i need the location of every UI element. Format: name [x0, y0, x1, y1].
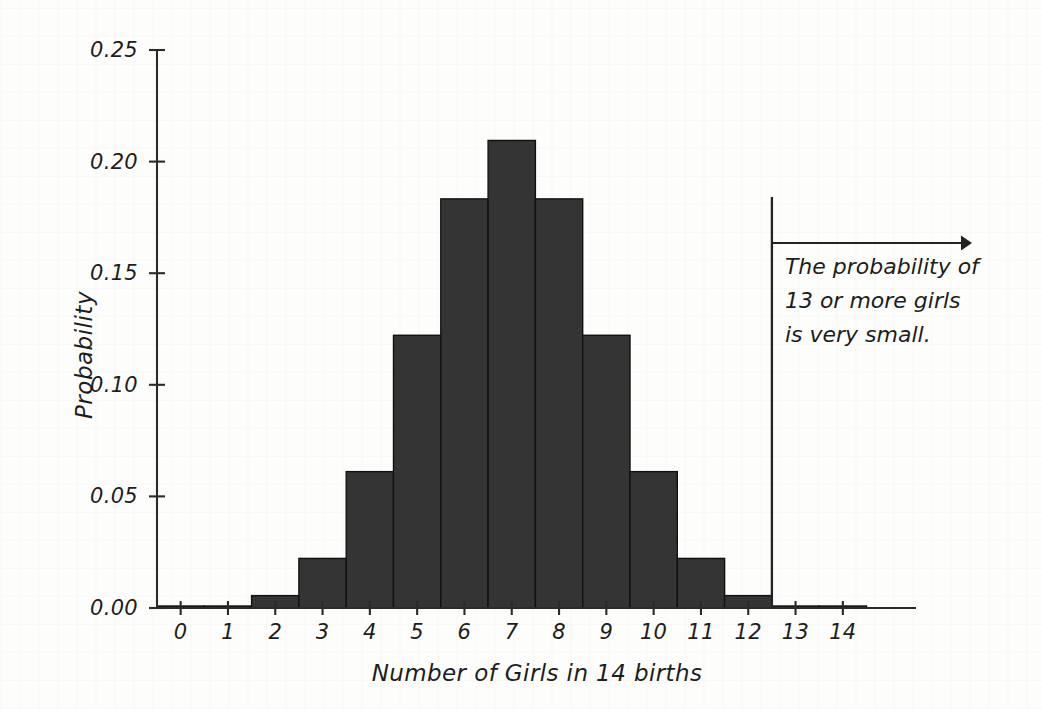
x-axis-tick-label: 2: [268, 620, 282, 644]
histogram-bar: [535, 199, 582, 608]
callout-text-line-1: The probability of: [785, 250, 1000, 284]
y-axis-tick-label: 0.05: [40, 484, 138, 508]
y-axis-tick-label: 0.15: [40, 261, 138, 285]
x-axis-tick-label: 10: [640, 620, 667, 644]
threshold-callout-text: The probability of 13 or more girls is v…: [785, 250, 1000, 352]
x-axis-tick-label: 14: [829, 620, 856, 644]
x-axis-tick-label: 6: [458, 620, 472, 644]
x-axis-tick-label: 1: [221, 620, 235, 644]
x-axis-tick-label: 5: [410, 620, 424, 644]
bars-group: [157, 140, 867, 608]
x-axis-tick-label: 3: [316, 620, 330, 644]
histogram-bar: [488, 140, 535, 608]
x-axis-tick-label: 13: [782, 620, 809, 644]
histogram-bar: [299, 558, 346, 608]
histogram-bar: [630, 472, 677, 608]
chart-canvas: [0, 0, 1042, 709]
x-axis-tick-label: 12: [735, 620, 762, 644]
x-axis-title: Number of Girls in 14 births: [157, 660, 917, 686]
threshold-arrow-head-icon: [961, 236, 972, 251]
y-axis-title: Probability: [71, 291, 97, 419]
x-axis-tick-label: 4: [363, 620, 377, 644]
x-axis-tick-label: 7: [505, 620, 519, 644]
callout-text-line-2: 13 or more girls: [785, 284, 1000, 318]
x-axis-tick-label: 8: [552, 620, 566, 644]
y-axis-tick-label: 0.00: [40, 596, 138, 620]
x-axis-tick-label: 0: [174, 620, 188, 644]
x-axis-tick-label: 11: [687, 620, 714, 644]
histogram-bar: [441, 199, 488, 608]
probability-histogram-chart: 0.000.050.100.150.200.25 012345678910111…: [0, 0, 1042, 709]
histogram-bar: [394, 335, 441, 608]
y-axis-tick-label: 0.25: [40, 38, 138, 62]
y-axis-tick-label: 0.20: [40, 150, 138, 174]
histogram-bar: [677, 558, 724, 608]
histogram-bar: [583, 335, 630, 608]
x-axis-tick-label: 9: [600, 620, 614, 644]
histogram-bar: [346, 472, 393, 608]
callout-text-line-3: is very small.: [785, 318, 1000, 352]
